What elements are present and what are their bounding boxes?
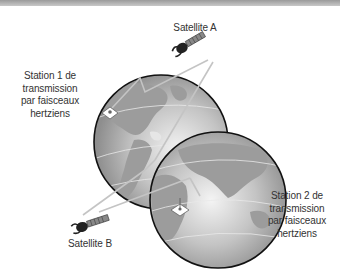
satellite-icon	[171, 31, 207, 58]
station-1-label: Station 1 de transmission par faisceaux …	[8, 70, 92, 120]
satellite-icon	[71, 213, 110, 235]
satellite-b-label: Satellite B	[50, 238, 130, 251]
station-2-label: Station 2 de transmission par faisceaux …	[254, 190, 340, 240]
satellite-a-label: Satellite A	[160, 22, 230, 35]
